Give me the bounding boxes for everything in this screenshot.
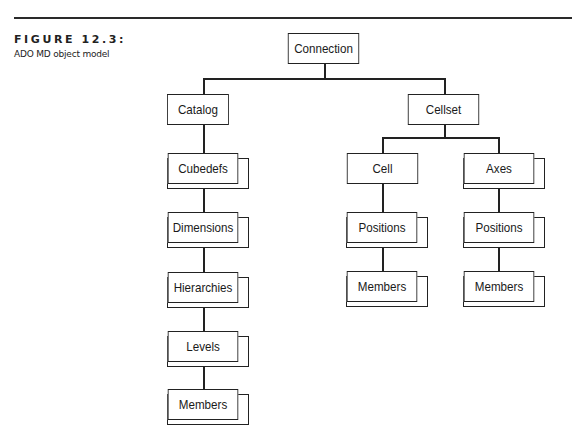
node-cell-positions: Positions [341,212,423,243]
connector-cellset-down [444,124,446,138]
connector-cell-positions-members [382,248,384,271]
connector-axes-positions-members [498,248,500,271]
connector-axes-positions [498,188,500,212]
node-label: Positions [358,220,405,235]
node-label: Members [358,279,406,294]
connector-to-cellset [444,78,446,94]
node-axes: Axes [458,153,540,184]
node-label: Cell [372,161,392,176]
node-hierarchies: Hierarchies [162,272,244,303]
node-label: Levels [186,339,220,354]
connector-top-horizontal [203,78,446,80]
connector-levels-members [203,367,205,389]
figure-caption: ADO MD object model [14,49,109,59]
node-axes-positions: Positions [458,212,540,243]
node-cell: Cell [341,153,424,184]
node-label: Members [179,397,227,412]
node-label: Positions [475,220,522,235]
node-cellset: Cellset [402,94,485,125]
node-label: Dimensions [173,220,234,235]
connector-catalog-cubedefs [203,124,205,153]
node-label: Cubedefs [178,161,228,176]
header-rule [14,17,572,19]
connector-to-catalog [203,78,205,94]
connector-cell-positions [382,183,384,212]
node-label: Hierarchies [174,280,233,295]
node-label: Members [475,279,523,294]
node-label: Catalog [178,102,218,117]
connector-hierarchies-levels [203,308,205,331]
node-connection: Connection [282,33,365,64]
connector-cellset-horizontal [382,137,499,139]
node-label: Connection [294,41,353,56]
node-catalog-members: Members [162,389,244,420]
node-cubedefs: Cubedefs [162,153,244,184]
node-axes-members: Members [458,271,540,302]
node-label: Cellset [426,102,461,117]
node-cell-members: Members [341,271,423,302]
connector-cubedefs-dimensions [203,188,205,212]
connector-to-cell [382,137,384,153]
node-catalog: Catalog [162,94,234,125]
figure-label: FIGURE 12.3: [14,33,126,46]
node-label: Axes [486,161,512,176]
node-dimensions: Dimensions [162,212,244,243]
node-levels: Levels [162,331,244,362]
connector-to-axes [498,137,500,153]
connector-dimensions-hierarchies [203,248,205,272]
